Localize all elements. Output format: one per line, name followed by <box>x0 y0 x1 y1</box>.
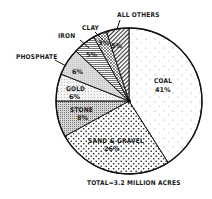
pct-iron: 5% <box>86 51 98 59</box>
leader-all-others <box>117 20 120 29</box>
total-label: TOTAL=3.2 MILLION ACRES <box>87 179 181 187</box>
label-iron: IRON <box>58 32 75 40</box>
pct-stone: 8% <box>77 114 89 122</box>
pie-center <box>127 99 131 103</box>
label-sand-gravel: SAND & GRAVEL <box>88 137 144 145</box>
label-coal: COAL <box>154 77 172 85</box>
pct-sand-gravel: 26% <box>104 145 120 153</box>
label-phosphate: PHOSPHATE <box>16 53 57 61</box>
pie-chart: ALL OTHERS CLAY IRON PHOSPHATE 5% 3% 5% … <box>0 0 212 199</box>
pct-phosphate: 6% <box>72 68 84 76</box>
label-stone: STONE <box>70 106 93 114</box>
pct-gold: 6% <box>69 93 81 101</box>
pct-coal: 41% <box>155 86 171 94</box>
label-gold: GOLD <box>66 85 85 93</box>
pct-all-others: 5% <box>111 42 123 50</box>
label-all-others: ALL OTHERS <box>117 11 160 19</box>
pct-clay: 3% <box>98 39 110 47</box>
label-clay: CLAY <box>82 24 100 32</box>
